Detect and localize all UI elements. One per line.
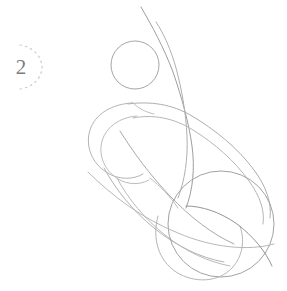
center-axis-curve (120, 131, 234, 244)
neck-curve-inner (156, 22, 187, 198)
body-oval-upper (128, 103, 270, 218)
head-circle (111, 41, 159, 89)
neck-base-tick (132, 102, 154, 114)
shoulder-loop (88, 103, 143, 178)
drawing-canvas: 2 (0, 0, 287, 291)
back-contour (186, 206, 272, 266)
step-number: 2 (4, 41, 38, 93)
rump-curve (156, 216, 243, 280)
neck-curve-outer (141, 7, 193, 208)
body-oval-upper-second (133, 117, 263, 225)
step-badge: 2 (4, 41, 48, 93)
body-oval-lower (104, 168, 224, 262)
lower-sweep-curve (88, 172, 274, 248)
belly-curve (117, 178, 230, 266)
chest-contour (150, 178, 178, 208)
